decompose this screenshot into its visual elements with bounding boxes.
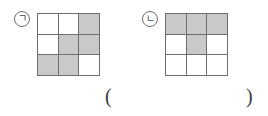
grid-a-cell-r3c1 [38, 55, 59, 76]
grid-b-cell-r1c1 [166, 14, 187, 35]
answer-open-paren: ( [105, 84, 112, 108]
figure-label-b: ㄴ [142, 11, 158, 27]
grid-a-cell-r1c2 [59, 14, 80, 35]
grid-b-cell-r1c3 [207, 14, 228, 35]
grid-b-cell-r2c2 [187, 35, 208, 56]
grid-b-cell-r2c1 [166, 35, 187, 56]
grid-b-cell-r3c1 [166, 55, 187, 76]
grid-a-cell-r2c1 [38, 35, 59, 56]
grid-b-cell-r2c3 [207, 35, 228, 56]
grid-a-cell-r3c2 [59, 55, 80, 76]
grid-a-cell-r2c2 [59, 35, 80, 56]
grid-b-cell-r3c2 [187, 55, 208, 76]
grid-a-cell-r3c3 [79, 55, 100, 76]
grid-b [165, 13, 228, 76]
grid-a-cell-r1c3 [79, 14, 100, 35]
figure-label-a: ㄱ [14, 11, 30, 27]
answer-close-paren: ) [246, 84, 253, 108]
grid-b-cell-r1c2 [187, 14, 208, 35]
grid-a [37, 13, 100, 76]
grid-b-cell-r3c3 [207, 55, 228, 76]
grid-a-cell-r2c3 [79, 35, 100, 56]
worksheet-figure: ㄱ ㄴ ( ) [0, 0, 268, 116]
grid-a-cell-r1c1 [38, 14, 59, 35]
answer-blank[interactable]: ( ) [100, 84, 260, 110]
